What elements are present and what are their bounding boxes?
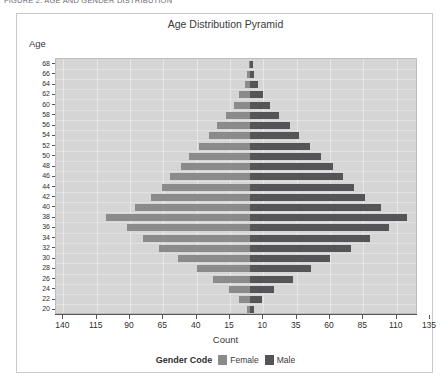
x-axis-tick-mark — [62, 315, 63, 319]
bar-male[interactable] — [250, 296, 262, 303]
row-separator — [56, 69, 416, 70]
x-axis-tick-mark — [329, 315, 330, 319]
bar-male[interactable] — [250, 71, 254, 78]
bar-male[interactable] — [250, 153, 321, 160]
bar-male[interactable] — [250, 112, 279, 119]
x-axis-tick-label: 135 — [409, 320, 448, 330]
row-separator — [56, 79, 416, 80]
gridline — [397, 59, 398, 313]
bar-male[interactable] — [250, 91, 263, 98]
legend-label-male: Male — [277, 355, 295, 365]
legend-item-male[interactable]: Male — [265, 355, 295, 365]
gridline — [63, 59, 64, 313]
y-axis-tick-label: 64 — [26, 80, 50, 87]
bar-male[interactable] — [250, 265, 311, 272]
y-axis-tick-mark — [52, 247, 55, 248]
bar-female[interactable] — [213, 276, 250, 283]
screenshot-root: FIGURE 2. AGE AND GENDER DISTRIBUTION Ag… — [0, 0, 448, 389]
row-separator — [56, 294, 416, 295]
bar-male[interactable] — [250, 81, 258, 88]
bar-male[interactable] — [250, 235, 370, 242]
bar-female[interactable] — [143, 235, 250, 242]
y-axis-tick-mark — [52, 125, 55, 126]
bar-female[interactable] — [181, 163, 250, 170]
legend-swatch-female-icon — [218, 355, 227, 365]
y-axis-tick-label: 20 — [26, 305, 50, 312]
y-axis-tick-label: 50 — [26, 152, 50, 159]
legend: Gender Code Female Male — [17, 355, 434, 365]
bar-male[interactable] — [250, 163, 333, 170]
bar-female[interactable] — [239, 296, 250, 303]
bar-female[interactable] — [229, 286, 250, 293]
x-axis-tick-mark — [396, 315, 397, 319]
y-axis-tick-mark — [52, 299, 55, 300]
bar-female[interactable] — [239, 91, 250, 98]
legend-item-female[interactable]: Female — [218, 355, 258, 365]
bar-male[interactable] — [250, 214, 407, 221]
bar-male[interactable] — [250, 204, 381, 211]
y-axis-tick-mark — [52, 84, 55, 85]
y-axis-tick-label: 68 — [26, 60, 50, 67]
bar-male[interactable] — [250, 224, 389, 231]
row-separator — [56, 171, 416, 172]
x-axis-tick-mark — [129, 315, 130, 319]
bar-female[interactable] — [162, 184, 250, 191]
row-separator — [56, 202, 416, 203]
y-axis-tick-mark — [52, 145, 55, 146]
row-separator — [56, 99, 416, 100]
y-axis-tick-label: 42 — [26, 193, 50, 200]
bar-male[interactable] — [250, 276, 293, 283]
bar-male[interactable] — [250, 61, 253, 68]
y-axis-tick-mark — [52, 268, 55, 269]
bar-male[interactable] — [250, 122, 290, 129]
y-axis-tick-label: 48 — [26, 162, 50, 169]
gridline — [363, 59, 364, 313]
row-separator — [56, 274, 416, 275]
bar-female[interactable] — [159, 245, 250, 252]
y-axis-tick-mark — [52, 135, 55, 136]
bar-male[interactable] — [250, 102, 270, 109]
row-separator — [56, 243, 416, 244]
bar-male[interactable] — [250, 184, 354, 191]
y-axis-tick-mark — [52, 217, 55, 218]
bar-female[interactable] — [226, 112, 250, 119]
bar-female[interactable] — [209, 132, 250, 139]
y-axis-tick-label: 62 — [26, 90, 50, 97]
bar-female[interactable] — [217, 122, 250, 129]
y-axis-tick-mark — [52, 155, 55, 156]
row-separator — [56, 304, 416, 305]
y-axis-tick-label: 36 — [26, 223, 50, 230]
y-axis-tick-label: 34 — [26, 234, 50, 241]
row-separator — [56, 233, 416, 234]
bar-male[interactable] — [250, 143, 310, 150]
bar-male[interactable] — [250, 194, 365, 201]
bar-female[interactable] — [135, 204, 250, 211]
row-separator — [56, 110, 416, 111]
bar-male[interactable] — [250, 306, 254, 313]
y-axis-tick-mark — [52, 196, 55, 197]
bar-female[interactable] — [151, 194, 250, 201]
bar-female[interactable] — [127, 224, 250, 231]
bar-female[interactable] — [199, 143, 250, 150]
y-axis-tick-mark — [52, 278, 55, 279]
bar-female[interactable] — [234, 102, 250, 109]
bar-female[interactable] — [197, 265, 250, 272]
y-axis-tick-mark — [52, 94, 55, 95]
y-axis-tick-mark — [52, 104, 55, 105]
chart-card: Age Distribution Pyramid Age 14011590654… — [16, 13, 433, 373]
bar-male[interactable] — [250, 173, 343, 180]
y-axis-tick-label: 26 — [26, 275, 50, 282]
y-axis-label: Age — [29, 38, 46, 49]
bar-female[interactable] — [178, 255, 250, 262]
bar-female[interactable] — [106, 214, 250, 221]
bar-male[interactable] — [250, 132, 299, 139]
bar-female[interactable] — [189, 153, 250, 160]
bar-male[interactable] — [250, 245, 351, 252]
bar-male[interactable] — [250, 255, 330, 262]
chart-title: Age Distribution Pyramid — [17, 18, 434, 30]
y-axis-tick-label: 40 — [26, 203, 50, 210]
row-separator — [56, 222, 416, 223]
row-separator — [56, 284, 416, 285]
bar-male[interactable] — [250, 286, 274, 293]
bar-female[interactable] — [170, 173, 250, 180]
